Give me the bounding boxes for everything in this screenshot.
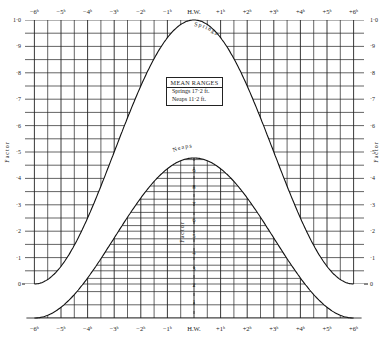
y-tick-label-right: ·2 bbox=[370, 228, 375, 234]
y-tick-label-right: 1·0 bbox=[370, 17, 378, 23]
springs-range: Springs 17·2 ft. bbox=[167, 88, 222, 95]
neaps-axis-label: 5 bbox=[193, 233, 196, 239]
x-tick-label: −1ʰ bbox=[163, 8, 172, 15]
y-tick-label-left: ·6 bbox=[16, 123, 21, 129]
neaps-axis-label: 7 bbox=[193, 201, 196, 207]
y-tick-label-left: 0 bbox=[18, 281, 21, 287]
x-tick-label: −1ʰ bbox=[163, 325, 172, 332]
y-tick-label-right: ·4 bbox=[370, 175, 375, 181]
x-tick-label: −5ʰ bbox=[56, 8, 65, 15]
x-tick-label: −6ʰ bbox=[30, 8, 39, 15]
neaps-range: Neaps 11·2 ft. bbox=[167, 96, 222, 103]
x-tick-label: +5ʰ bbox=[322, 325, 331, 332]
x-tick-label: +1ʰ bbox=[216, 325, 225, 332]
x-tick-label: +5ʰ bbox=[322, 8, 331, 15]
y-tick-label-right: ·3 bbox=[370, 202, 375, 208]
x-tick-label: +2ʰ bbox=[243, 325, 252, 332]
y-tick-label-right: 0 bbox=[370, 281, 373, 287]
neaps-axis-label: 8 bbox=[193, 184, 196, 190]
y-tick-label-right: ·9 bbox=[370, 43, 375, 49]
x-tick-label: −6ʰ bbox=[30, 325, 39, 332]
neaps-axis-label: 2 bbox=[193, 282, 196, 288]
x-tick-label: H.W. bbox=[187, 325, 201, 332]
y-tick-label-left: ·9 bbox=[16, 43, 21, 49]
neaps-axis-label: 6 bbox=[193, 217, 196, 223]
y-tick-label-left: ·7 bbox=[16, 96, 21, 102]
x-tick-label: −2ʰ bbox=[136, 8, 145, 15]
y-tick-label-left: ·4 bbox=[16, 175, 21, 181]
x-tick-label: +1ʰ bbox=[216, 8, 225, 15]
y-tick-label-right: ·7 bbox=[370, 96, 375, 102]
y-tick-label-left: ·5 bbox=[16, 149, 21, 155]
neaps-curve-label: Neaps bbox=[172, 142, 193, 153]
x-tick-label: +3ʰ bbox=[269, 325, 278, 332]
x-tick-label: −3ʰ bbox=[110, 325, 119, 332]
y-tick-label-right: ·1 bbox=[370, 255, 375, 261]
neaps-axis-label: 9 bbox=[193, 168, 196, 174]
x-tick-label: +4ʰ bbox=[296, 325, 305, 332]
x-tick-label: +2ʰ bbox=[243, 8, 252, 15]
mean-ranges-title: MEAN RANGES bbox=[167, 78, 222, 88]
x-tick-label: −4ʰ bbox=[83, 8, 92, 15]
x-tick-label: −5ʰ bbox=[56, 325, 65, 332]
x-tick-label: +4ʰ bbox=[296, 8, 305, 15]
y-tick-label-left: ·2 bbox=[16, 228, 21, 234]
y-tick-label-left: ·8 bbox=[16, 70, 21, 76]
mean-ranges-box: MEAN RANGES Springs 17·2 ft. Neaps 11·2 … bbox=[166, 77, 223, 106]
y-tick-label-left: 1·0 bbox=[13, 17, 21, 23]
x-tick-label: +3ʰ bbox=[269, 8, 278, 15]
factor-axis-label-left: Factor bbox=[4, 141, 10, 162]
y-tick-label-left: ·1 bbox=[16, 255, 21, 261]
neaps-axis-label: 1 bbox=[193, 299, 196, 305]
factor-axis-label-center: Factor bbox=[179, 221, 185, 242]
factor-axis-label-right: Factor bbox=[373, 141, 379, 162]
neaps-axis-label: 3 bbox=[193, 266, 196, 272]
neaps-axis-label: 4 bbox=[193, 250, 196, 256]
y-tick-label-right: ·6 bbox=[370, 123, 375, 129]
y-tick-label-right: ·8 bbox=[370, 70, 375, 76]
x-tick-label: −3ʰ bbox=[110, 8, 119, 15]
x-tick-label: −4ʰ bbox=[83, 325, 92, 332]
springs-curve-label: Springs bbox=[194, 21, 220, 37]
x-tick-label: −2ʰ bbox=[136, 325, 145, 332]
x-tick-label: H.W. bbox=[187, 8, 201, 15]
tidal-curve-chart: −6ʰ−6ʰ−5ʰ−5ʰ−4ʰ−4ʰ−3ʰ−3ʰ−2ʰ−2ʰ−1ʰ−1ʰH.W.… bbox=[0, 0, 387, 342]
x-tick-label: +6ʰ bbox=[349, 8, 358, 15]
x-tick-label: +6ʰ bbox=[349, 325, 358, 332]
y-tick-label-left: ·3 bbox=[16, 202, 21, 208]
